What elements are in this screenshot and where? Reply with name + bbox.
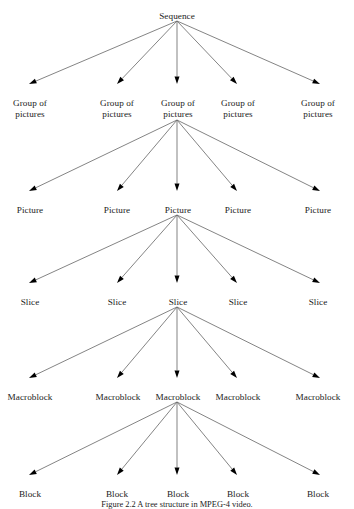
node-label-line: Group of	[87, 98, 147, 109]
node-macroblock: Macroblock	[296, 392, 341, 403]
arrowhead-group	[29, 77, 320, 476]
node-label-line: Picture	[104, 205, 130, 216]
edge-macroblock-to-block	[177, 402, 232, 469]
edge-picture-to-slice	[36, 215, 177, 280]
edge-group-of-pictures-to-picture	[122, 120, 177, 185]
node-label-line: Slice	[108, 297, 127, 308]
edge-picture-to-slice	[122, 215, 177, 277]
node-label-line: Slice	[169, 297, 188, 308]
arrowhead-slice	[175, 276, 180, 284]
edge-picture-to-slice	[177, 215, 232, 277]
node-label-line: Block	[307, 489, 329, 500]
edge-picture-to-slice	[177, 215, 313, 280]
node-label-line: Picture	[225, 205, 251, 216]
node-slice: Slice	[169, 297, 188, 308]
arrowhead-group-of-pictures	[117, 77, 124, 84]
arrowhead-block	[230, 468, 237, 475]
arrowhead-slice	[312, 278, 320, 283]
arrowhead-picture	[117, 184, 124, 191]
node-block: Block	[106, 489, 128, 500]
edge-macroblock-to-block	[36, 402, 177, 472]
edge-group-of-pictures-to-picture	[177, 120, 232, 185]
node-group-of-pictures: Group ofpictures	[208, 98, 268, 120]
node-label-line: Slice	[21, 297, 40, 308]
edge-slice-to-macroblock	[122, 307, 177, 372]
edge-slice-to-macroblock	[177, 307, 232, 372]
node-picture: Picture	[17, 205, 43, 216]
node-label-line: Slice	[309, 297, 328, 308]
arrowhead-group-of-pictures	[175, 77, 180, 85]
node-group-of-pictures: Group ofpictures	[0, 98, 60, 120]
node-slice: Slice	[21, 297, 40, 308]
node-label-line: Macroblock	[156, 392, 201, 403]
arrowhead-group-of-pictures	[312, 79, 320, 84]
arrowhead-slice	[230, 276, 237, 283]
node-label-line: Group of	[0, 98, 60, 109]
node-label-line: Block	[19, 489, 41, 500]
figure-caption: Figure 2.2 A tree structure in MPEG-4 vi…	[0, 500, 354, 509]
arrowhead-group-of-pictures	[29, 79, 37, 84]
node-label-line: pictures	[288, 109, 348, 120]
node-label-line: Block	[167, 489, 189, 500]
node-macroblock: Macroblock	[216, 392, 261, 403]
node-label-line: Group of	[148, 98, 208, 109]
edge-group	[36, 21, 314, 472]
node-label-line: Slice	[229, 297, 248, 308]
arrowhead-group-of-pictures	[230, 77, 237, 84]
arrowhead-slice	[117, 276, 124, 283]
node-macroblock: Macroblock	[156, 392, 201, 403]
node-label-line: Block	[227, 489, 249, 500]
node-label-line: Block	[106, 489, 128, 500]
node-label-line: Picture	[305, 205, 331, 216]
node-label-line: Picture	[165, 205, 191, 216]
node-macroblock: Macroblock	[8, 392, 53, 403]
node-label-line: Group of	[208, 98, 268, 109]
arrowhead-picture	[29, 186, 37, 191]
arrowhead-block	[175, 468, 180, 476]
node-picture: Picture	[165, 205, 191, 216]
node-label-line: pictures	[148, 109, 208, 120]
arrowhead-picture	[312, 185, 320, 191]
node-picture: Picture	[305, 205, 331, 216]
node-block: Block	[19, 489, 41, 500]
node-slice: Slice	[229, 297, 248, 308]
arrowhead-macroblock	[230, 371, 237, 378]
node-slice: Slice	[108, 297, 127, 308]
arrowhead-block	[29, 469, 37, 475]
arrowhead-block	[312, 469, 320, 475]
node-picture: Picture	[104, 205, 130, 216]
arrowhead-picture	[230, 184, 237, 191]
node-label-line: pictures	[0, 109, 60, 120]
arrowhead-macroblock	[117, 371, 124, 378]
arrowhead-macroblock	[312, 372, 320, 378]
node-label-line: Macroblock	[296, 392, 341, 403]
edge-group-of-pictures-to-picture	[177, 120, 313, 188]
edge-group-of-pictures-to-picture	[36, 120, 177, 188]
node-group-of-pictures: Group ofpictures	[148, 98, 208, 120]
edge-sequence-to-group-of-pictures	[122, 21, 177, 79]
edge-sequence-to-group-of-pictures	[177, 21, 232, 79]
node-sequence: Sequence	[159, 11, 195, 22]
node-group-of-pictures: Group ofpictures	[288, 98, 348, 120]
node-label-line: Macroblock	[8, 392, 53, 403]
edge-slice-to-macroblock	[36, 307, 177, 375]
node-label-line: Macroblock	[216, 392, 261, 403]
node-slice: Slice	[309, 297, 328, 308]
arrowhead-block	[117, 468, 124, 475]
arrowhead-macroblock	[29, 373, 37, 378]
node-label-line: pictures	[87, 109, 147, 120]
node-block: Block	[167, 489, 189, 500]
edge-sequence-to-group-of-pictures	[36, 21, 177, 81]
node-block: Block	[227, 489, 249, 500]
edge-macroblock-to-block	[177, 402, 313, 472]
node-label-line: Picture	[17, 205, 43, 216]
arrowhead-macroblock	[175, 371, 180, 379]
node-macroblock: Macroblock	[96, 392, 141, 403]
edge-macroblock-to-block	[122, 402, 177, 469]
edge-slice-to-macroblock	[177, 307, 313, 375]
node-label-line: Macroblock	[96, 392, 141, 403]
node-picture: Picture	[225, 205, 251, 216]
edge-sequence-to-group-of-pictures	[177, 21, 313, 81]
node-label-line: pictures	[208, 109, 268, 120]
arrowhead-picture	[175, 184, 180, 192]
